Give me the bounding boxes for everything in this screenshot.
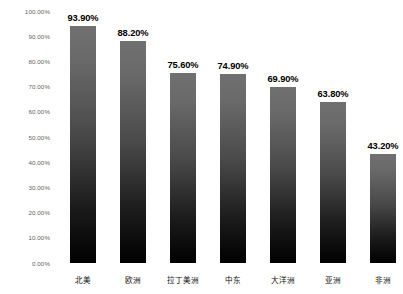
bar-value-label: 74.90% — [218, 61, 249, 72]
bar[interactable] — [320, 102, 346, 263]
bar-value-label: 75.60% — [168, 60, 199, 71]
bar-value-label: 88.20% — [118, 28, 149, 39]
x-axis-category-label: 北美 — [58, 276, 108, 286]
bar-group: 74.90% — [208, 11, 258, 263]
y-axis-tick-label: 10.00% — [0, 234, 50, 241]
y-axis-tick-label: 90.00% — [0, 33, 50, 40]
x-axis-category-label: 拉丁美洲 — [158, 276, 208, 286]
y-axis: 0.00%10.00%20.00%30.00%40.00%50.00%60.00… — [0, 0, 53, 294]
x-axis-category-label: 大洋洲 — [258, 276, 308, 286]
bar-value-label: 43.20% — [368, 141, 399, 152]
y-axis-tick-label: 60.00% — [0, 108, 50, 115]
y-axis-tick-label: 30.00% — [0, 184, 50, 191]
bar[interactable] — [120, 41, 146, 263]
bar-group: 93.90% — [58, 11, 108, 263]
bar[interactable] — [70, 26, 96, 263]
y-axis-tick-label: 80.00% — [0, 58, 50, 65]
bar-group: 63.80% — [308, 11, 358, 263]
y-axis-tick-label: 50.00% — [0, 134, 50, 141]
x-axis-category-label: 非洲 — [358, 276, 403, 286]
x-axis-category-label: 欧洲 — [108, 276, 158, 286]
bar-group: 69.90% — [258, 11, 308, 263]
bar-value-label: 69.90% — [268, 74, 299, 85]
plot-area: 93.90%北美88.20%欧洲75.60%拉丁美洲74.90%中东69.90%… — [53, 0, 403, 294]
bar-group: 88.20% — [108, 11, 158, 263]
y-axis-tick-label: 70.00% — [0, 83, 50, 90]
bar-chart: 0.00%10.00%20.00%30.00%40.00%50.00%60.00… — [0, 0, 403, 294]
bar-value-label: 63.80% — [318, 89, 349, 100]
x-axis-category-label: 中东 — [208, 276, 258, 286]
y-axis-tick-label: 20.00% — [0, 209, 50, 216]
y-axis-tick-label: 40.00% — [0, 159, 50, 166]
x-axis-category-label: 亚洲 — [308, 276, 358, 286]
bar[interactable] — [220, 74, 246, 263]
bar[interactable] — [170, 73, 196, 264]
bar-group: 75.60% — [158, 11, 208, 263]
bar[interactable] — [370, 154, 396, 263]
bar-group: 43.20% — [358, 11, 403, 263]
bar-value-label: 93.90% — [68, 13, 99, 24]
y-axis-tick-label: 0.00% — [0, 260, 50, 267]
bar[interactable] — [270, 87, 296, 263]
y-axis-tick-label: 100.00% — [0, 8, 50, 15]
